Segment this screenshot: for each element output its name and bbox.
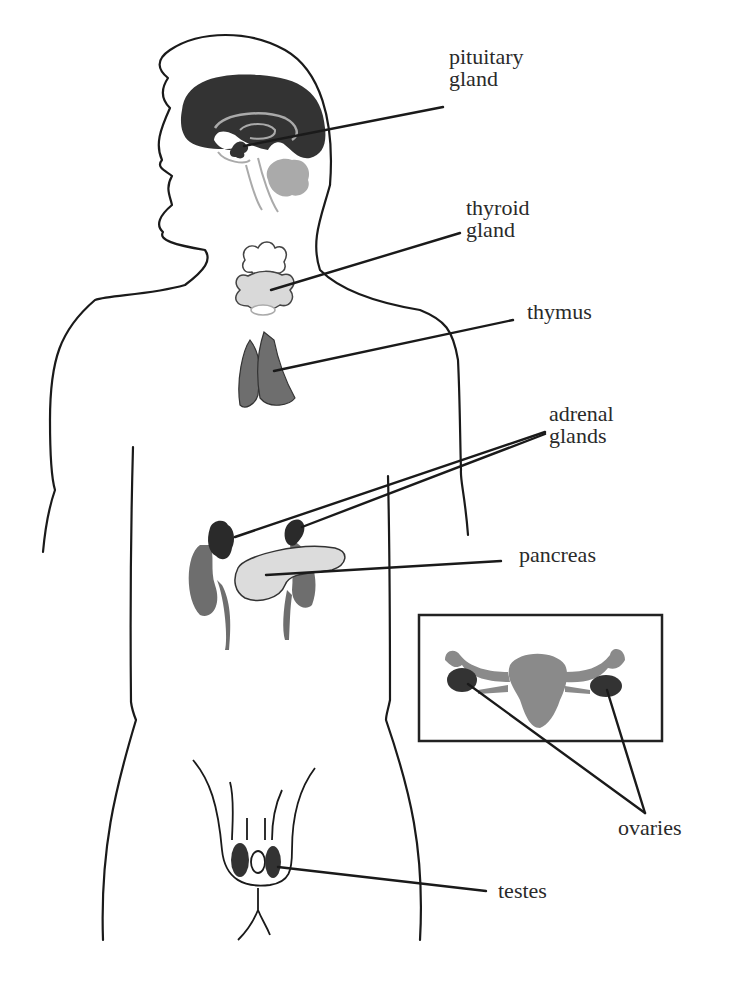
leader-lines	[235, 107, 645, 891]
label-adrenal-line2: glands	[549, 425, 614, 447]
thyroid-gland	[236, 242, 294, 315]
label-thyroid-gland: thyroid gland	[466, 197, 530, 241]
label-thymus: thymus	[527, 301, 592, 323]
label-pituitary-gland: pituitary gland	[449, 46, 524, 90]
label-testes-line1: testes	[498, 880, 547, 902]
label-thymus-line1: thymus	[527, 301, 592, 323]
label-ovaries: ovaries	[618, 817, 682, 839]
label-pituitary-line2: gland	[449, 68, 524, 90]
adrenal-leader-right	[302, 434, 545, 527]
endocrine-diagram	[0, 0, 736, 1003]
adrenal-leader-left	[235, 432, 545, 537]
label-adrenal-line1: adrenal	[549, 403, 614, 425]
label-thyroid-line2: gland	[466, 219, 530, 241]
testes-leader	[278, 867, 486, 891]
label-pituitary-line1: pituitary	[449, 46, 524, 68]
cerebellum	[267, 159, 309, 197]
label-pancreas-line1: pancreas	[519, 544, 596, 566]
pituitary-gland	[230, 142, 248, 159]
male-genitals	[193, 760, 315, 940]
label-ovaries-line1: ovaries	[618, 817, 682, 839]
label-testes: testes	[498, 880, 547, 902]
label-pancreas: pancreas	[519, 544, 596, 566]
label-thyroid-line1: thyroid	[466, 197, 530, 219]
thymus-leader	[274, 320, 513, 371]
thyroid-leader	[271, 233, 460, 290]
label-adrenal-glands: adrenal glands	[549, 403, 614, 447]
